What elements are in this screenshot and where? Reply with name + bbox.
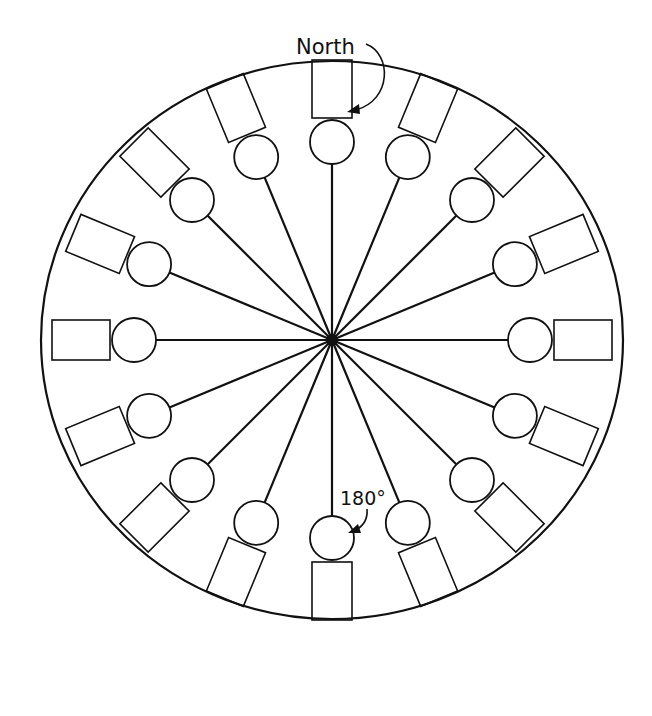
radial-diagram: North 180° — [0, 0, 652, 716]
spoke-rectangle — [529, 214, 598, 273]
spoke-circle — [386, 501, 430, 545]
spoke-rectangle — [312, 60, 352, 118]
spoke-rectangle — [52, 320, 110, 360]
south-angle-label: 180° — [340, 487, 386, 509]
spoke-circle — [310, 516, 354, 560]
spoke-line — [208, 216, 333, 341]
spoke-circle — [508, 318, 552, 362]
spoke-circle — [170, 458, 214, 502]
spoke-rectangle — [529, 406, 598, 465]
spoke-circle — [386, 135, 430, 179]
spoke-rectangle — [66, 406, 135, 465]
spoke-rectangle — [312, 562, 352, 620]
spoke-line — [208, 340, 333, 465]
north-label: North — [296, 35, 355, 59]
spoke-circle — [450, 178, 494, 222]
spoke-rectangle — [554, 320, 612, 360]
spoke-circle — [493, 242, 537, 286]
spoke-line — [332, 216, 457, 341]
spoke-circle — [310, 120, 354, 164]
spoke-circle — [493, 394, 537, 438]
spoke-rectangle — [66, 214, 135, 273]
center-hub — [326, 334, 338, 346]
north-arrow-icon — [356, 44, 384, 110]
spoke-circle — [112, 318, 156, 362]
spoke-circle — [450, 458, 494, 502]
spoke-circle — [234, 501, 278, 545]
spoke-circle — [170, 178, 214, 222]
spoke-line — [332, 340, 457, 465]
spoke-circle — [234, 135, 278, 179]
spoke-circle — [127, 394, 171, 438]
spoke-circle — [127, 242, 171, 286]
